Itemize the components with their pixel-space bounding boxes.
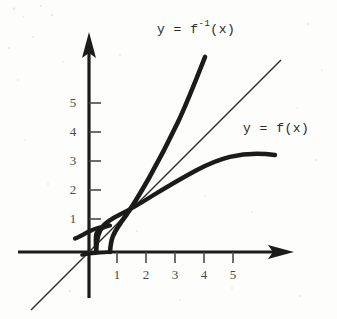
x-tick-label-2: 2 [139, 268, 153, 281]
y-tick-label-4: 4 [66, 125, 80, 138]
label-f-inverse-suffix: (x) [210, 22, 235, 37]
x-tick-label-1: 1 [110, 268, 124, 281]
x-tick-label-4: 4 [197, 268, 211, 281]
graph-figure: 1 2 3 4 5 1 2 3 4 5 y = f-1(x) y = f(x) [0, 0, 337, 319]
label-f-of-x: y = f(x) [243, 121, 309, 136]
curve-f-of-x [96, 154, 275, 252]
x-tick-label-5: 5 [226, 268, 240, 281]
y-tick-label-2: 2 [66, 183, 80, 196]
y-tick-label-1: 1 [66, 212, 80, 225]
label-f-inverse-of-x: y = f-1(x) [157, 22, 235, 37]
label-f-inverse-prefix: y = f [157, 22, 199, 37]
y-axis-ticks [89, 103, 101, 219]
y-tick-label-5: 5 [66, 96, 80, 109]
x-tick-label-3: 3 [168, 268, 182, 281]
x-axis-ticks [117, 252, 233, 263]
curve-f-inverse-of-x [110, 57, 205, 252]
y-tick-label-3: 3 [66, 154, 80, 167]
label-f-inverse-exponent: -1 [199, 19, 211, 29]
